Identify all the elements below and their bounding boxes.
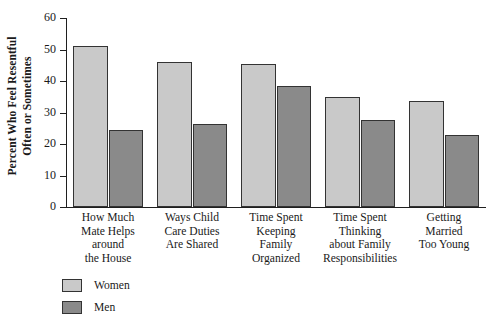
category-label-line: Ways Child — [144, 211, 240, 225]
bar-group — [150, 18, 234, 207]
bar-group — [318, 18, 402, 207]
y-axis-title-line-1: Percent Who Feel Resentful — [6, 36, 18, 175]
y-axis-tick-label: 20 — [30, 135, 56, 152]
bar-men — [109, 130, 144, 207]
x-axis-line — [66, 207, 486, 208]
x-axis-category-label: Time SpentThinkingabout FamilyResponsibi… — [312, 211, 408, 265]
y-axis-tick-label: 30 — [30, 104, 56, 121]
category-label-line: Too Young — [396, 238, 492, 252]
bar-men — [445, 135, 480, 207]
bar-men — [277, 86, 312, 207]
legend-label: Men — [94, 301, 115, 314]
category-label-line: Getting — [396, 211, 492, 225]
bar-women — [157, 62, 192, 207]
bar-group — [234, 18, 318, 207]
y-axis-tick-label: 60 — [30, 9, 56, 26]
x-axis-category-label: Ways ChildCare DutiesAre Shared — [144, 211, 240, 252]
legend-swatch — [62, 301, 82, 314]
bar-group — [66, 18, 150, 207]
legend-item: Women — [62, 276, 262, 295]
x-axis-category-label: GettingMarriedToo Young — [396, 211, 492, 252]
category-label-line: Are Shared — [144, 238, 240, 252]
x-axis-category-labels: How MuchMate Helpsaroundthe HouseWays Ch… — [66, 211, 486, 271]
category-label-line: Thinking — [312, 225, 408, 239]
y-axis-tick-label: 0 — [30, 198, 56, 215]
category-label-line: How Much — [60, 211, 156, 225]
category-label-line: Organized — [228, 252, 324, 266]
x-axis-category-label: Time SpentKeepingFamilyOrganized — [228, 211, 324, 265]
bar-men — [193, 124, 228, 207]
category-label-line: Mate Helps — [60, 225, 156, 239]
category-label-line: Married — [396, 225, 492, 239]
category-label-line: about Family — [312, 238, 408, 252]
y-axis-tick-label: 40 — [30, 72, 56, 89]
plot-area: 0102030405060 — [66, 18, 486, 207]
bar-group — [402, 18, 486, 207]
bar-men — [361, 120, 396, 207]
legend-label: Women — [94, 279, 130, 292]
chart-legend: WomenMen — [62, 276, 262, 320]
legend-swatch — [62, 279, 82, 292]
y-axis-tick: 0 — [60, 207, 66, 208]
bar-women — [409, 101, 444, 207]
bar-groups — [66, 18, 486, 207]
y-axis-tick-label: 10 — [30, 167, 56, 184]
bar-women — [241, 64, 276, 207]
category-label-line: around — [60, 238, 156, 252]
category-label-line: Responsibilities — [312, 252, 408, 266]
bar-women — [325, 97, 360, 207]
y-axis-tick-label: 50 — [30, 41, 56, 58]
bar-chart: Percent Who Feel Resentful Often or Some… — [0, 0, 495, 323]
category-label-line: Time Spent — [312, 211, 408, 225]
category-label-line: Family — [228, 238, 324, 252]
x-axis-category-label: How MuchMate Helpsaroundthe House — [60, 211, 156, 265]
category-label-line: Time Spent — [228, 211, 324, 225]
legend-item: Men — [62, 298, 262, 317]
category-label-line: the House — [60, 252, 156, 266]
bar-women — [73, 46, 108, 207]
category-label-line: Keeping — [228, 225, 324, 239]
category-label-line: Care Duties — [144, 225, 240, 239]
